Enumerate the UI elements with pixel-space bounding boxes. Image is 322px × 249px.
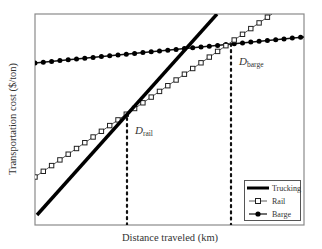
d-rail-label-sub: rail bbox=[143, 129, 153, 138]
legend: Trucking Rail Barge bbox=[244, 180, 301, 221]
legend-item-barge: Barge bbox=[247, 208, 291, 220]
y-axis-label: Transportation cost ($/ton) bbox=[7, 63, 18, 175]
d-barge-label-sub: barge bbox=[247, 60, 264, 69]
barge-circle-marker-icon bbox=[247, 210, 269, 218]
rail-square-marker-icon bbox=[247, 197, 269, 205]
series-trucking bbox=[37, 14, 217, 215]
legend-item-rail: Rail bbox=[247, 195, 285, 207]
d-barge-label-main: D bbox=[239, 55, 247, 67]
x-axis-label: Distance traveled (km) bbox=[122, 232, 218, 243]
legend-label-rail: Rail bbox=[272, 197, 285, 206]
series-rail bbox=[33, 14, 272, 179]
legend-item-trucking: Trucking bbox=[247, 182, 301, 194]
d-rail-label: Drail bbox=[135, 124, 153, 138]
legend-label-trucking: Trucking bbox=[272, 184, 301, 193]
d-barge-label: Dbarge bbox=[239, 55, 263, 69]
trucking-line-icon bbox=[247, 184, 269, 192]
legend-label-barge: Barge bbox=[272, 210, 291, 219]
d-rail-label-main: D bbox=[135, 124, 143, 136]
